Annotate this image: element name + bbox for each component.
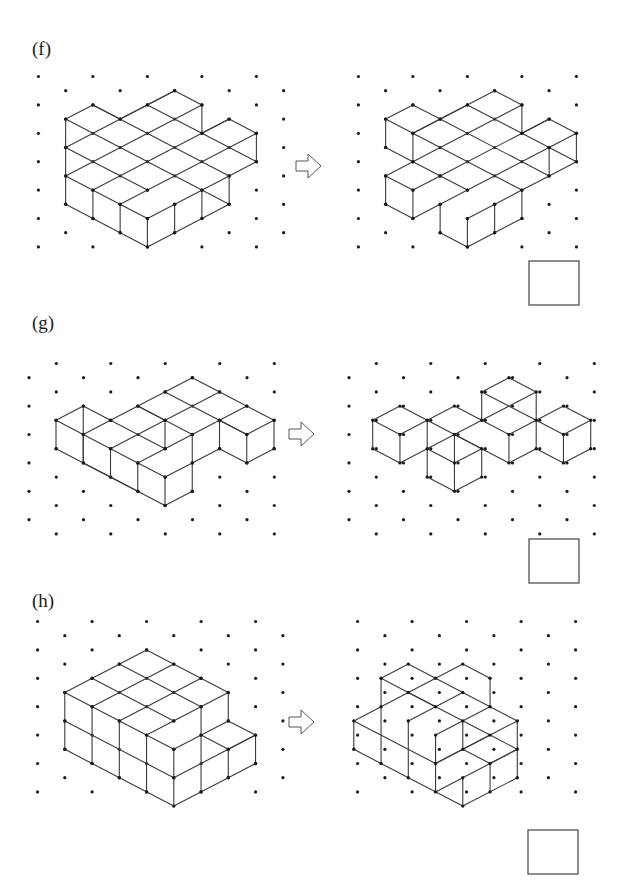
vertex-dot <box>411 160 414 163</box>
answer-box-f[interactable] <box>529 261 579 305</box>
vertex-dot <box>191 490 194 493</box>
grid-dot <box>538 504 541 507</box>
vertex-dot <box>426 419 429 422</box>
vertex-dot <box>547 174 550 177</box>
vertex-dot <box>493 203 496 206</box>
vertex-dot <box>54 447 57 450</box>
vertex-dot <box>488 790 491 793</box>
grid-dot <box>145 620 148 623</box>
grid-dot <box>91 620 94 623</box>
vertex-dot <box>384 203 387 206</box>
grid-dot <box>347 461 350 464</box>
grid-dot <box>538 362 541 365</box>
cube-edge <box>229 119 256 133</box>
grid-dot <box>593 419 596 422</box>
grid-dot <box>547 691 550 694</box>
grid-dot <box>438 634 441 637</box>
grid-dot <box>484 532 487 535</box>
grid-dot <box>520 245 523 248</box>
vertex-dot <box>398 433 401 436</box>
vertex-dot <box>191 461 194 464</box>
vertex-dot <box>118 776 121 779</box>
vertex-dot <box>453 461 456 464</box>
vertex-dot <box>575 132 578 135</box>
vertex-dot <box>507 376 510 379</box>
cube-edge <box>522 176 549 190</box>
isometric-worksheet <box>0 0 622 895</box>
vertex-dot <box>163 419 166 422</box>
grid-dot <box>411 677 414 680</box>
cube-edge <box>373 449 400 463</box>
grid-dot <box>63 634 66 637</box>
grid-dot <box>492 719 495 722</box>
grid-dot <box>411 790 414 793</box>
cube-edge <box>427 406 454 420</box>
grid-dot <box>191 518 194 521</box>
figure-g-left <box>54 376 275 507</box>
grid-dot <box>593 532 596 535</box>
grid-dot <box>55 390 58 393</box>
vertex-dot <box>411 103 414 106</box>
cube-edge <box>56 420 138 463</box>
vertex-dot <box>466 217 469 220</box>
grid-dot <box>402 376 405 379</box>
grid-dot <box>538 476 541 479</box>
cube-edge <box>463 749 490 763</box>
vertex-dot <box>245 461 248 464</box>
cube-edge <box>192 420 219 434</box>
grid-dot <box>227 663 230 666</box>
cube-edge <box>66 105 202 176</box>
grid-dot <box>37 160 40 163</box>
grid-dot <box>520 705 523 708</box>
answer-box-g[interactable] <box>529 539 579 583</box>
grid-dot <box>347 518 350 521</box>
grid-dot <box>520 790 523 793</box>
cube-edge <box>490 707 517 721</box>
vertex-dot <box>535 419 538 422</box>
vertex-dot <box>172 662 175 665</box>
grid-dot <box>36 705 39 708</box>
grid-dot <box>565 490 568 493</box>
cube-edge <box>454 449 481 463</box>
vertex-dot <box>136 404 139 407</box>
grid-dot <box>465 620 468 623</box>
vertex-dot <box>520 103 523 106</box>
cube-edge <box>454 406 481 420</box>
vertex-dot <box>535 447 538 450</box>
vertex-dot <box>218 390 221 393</box>
cube-edge <box>509 378 536 392</box>
vertex-dot <box>466 188 469 191</box>
grid-dot <box>347 376 350 379</box>
grid-dot <box>548 89 551 92</box>
cube-edge <box>165 491 192 505</box>
vertex-dot <box>109 475 112 478</box>
grid-dot <box>547 634 550 637</box>
answer-box-h[interactable] <box>528 830 578 874</box>
grid-dot <box>118 634 121 637</box>
vertex-dot <box>371 419 374 422</box>
cube-edge <box>427 477 454 491</box>
cube-edge <box>454 435 481 449</box>
grid-dot <box>411 705 414 708</box>
vertex-dot <box>118 231 121 234</box>
grid-dot <box>357 103 360 106</box>
cube-edge <box>66 176 148 219</box>
grid-dot <box>492 691 495 694</box>
vertex-dot <box>200 217 203 220</box>
vertex-dot <box>488 733 491 736</box>
grid-dot <box>511 518 514 521</box>
grid-dot <box>375 476 378 479</box>
grid-dot <box>375 390 378 393</box>
cube-edge <box>563 406 590 420</box>
answer-boxes[interactable] <box>528 261 579 874</box>
cube-edge <box>536 406 563 420</box>
cube-edge <box>92 678 174 721</box>
grid-dot <box>438 748 441 751</box>
grid-dot <box>429 532 432 535</box>
vertex-dot <box>480 475 483 478</box>
vertex-dot <box>146 103 149 106</box>
cube-edge <box>373 420 400 434</box>
grid-dot <box>538 532 541 535</box>
vertex-dot <box>218 419 221 422</box>
grid-dot <box>383 691 386 694</box>
